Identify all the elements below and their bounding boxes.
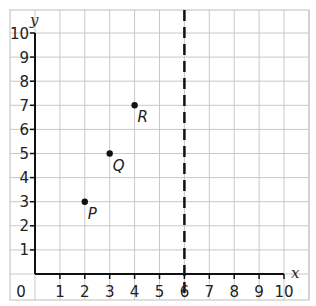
origin-label: 0 (16, 283, 26, 301)
y-tick-label: 4 (19, 169, 29, 187)
x-tick-label: 10 (274, 283, 293, 301)
x-tick-label: 3 (105, 283, 115, 301)
y-tick-label: 3 (19, 193, 29, 211)
y-tick-label: 7 (19, 97, 29, 115)
y-tick-label: 6 (19, 121, 29, 139)
point-label-q: Q (113, 157, 125, 175)
x-tick-label: 2 (80, 283, 90, 301)
x-tick-label: 6 (180, 283, 190, 301)
point-label-p: P (88, 205, 98, 223)
y-tick-label: 8 (19, 73, 29, 91)
x-tick-label: 9 (254, 283, 264, 301)
x-tick-label: 7 (205, 283, 215, 301)
y-tick-label: 2 (19, 217, 29, 235)
point-label-r: R (138, 108, 148, 126)
x-tick-label: 5 (155, 283, 165, 301)
coordinate-grid-chart: PQR 12345678910123456789100xy (0, 0, 316, 306)
x-tick-label: 8 (229, 283, 239, 301)
x-tick-label: 4 (130, 283, 140, 301)
tick-labels: 12345678910123456789100xy (10, 11, 300, 301)
y-tick-label: 10 (10, 25, 29, 43)
y-axis-label: y (29, 11, 39, 29)
axis-ticks (30, 33, 284, 279)
y-tick-label: 5 (19, 145, 29, 163)
y-tick-label: 1 (19, 241, 29, 259)
y-tick-label: 9 (19, 49, 29, 67)
plotted-points: PQR (82, 102, 148, 223)
x-axis-label: x (291, 264, 300, 282)
grid-lines (10, 10, 309, 300)
x-tick-label: 1 (55, 283, 65, 301)
